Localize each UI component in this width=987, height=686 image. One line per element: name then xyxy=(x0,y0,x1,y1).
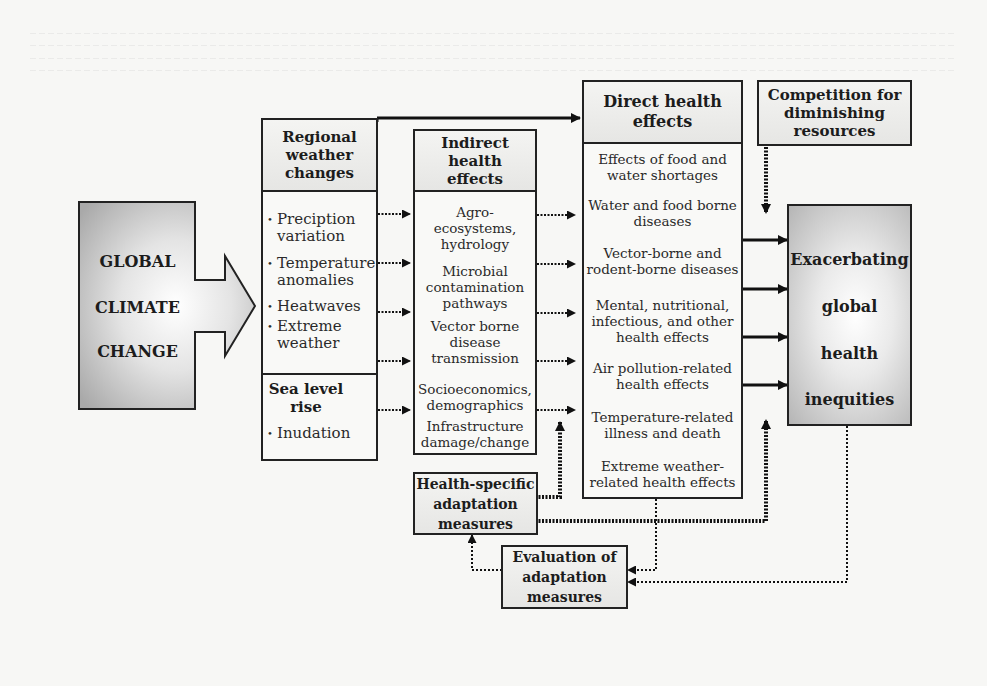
adaptation-measures-box: Health-specific adaptation measures xyxy=(413,472,538,535)
source-label-line1: GLOBAL xyxy=(80,252,195,271)
indirect-item: Microbialcontaminationpathways xyxy=(413,263,537,311)
regional-item: Heatwaves xyxy=(277,298,361,315)
header-line: weather xyxy=(286,146,353,164)
indirect-item: Agro-ecosystems,hydrology xyxy=(413,204,537,252)
direct-item: Vector-borne androdent-borne diseases xyxy=(582,245,743,277)
direct-item: Effects of food andwater shortages xyxy=(582,151,743,183)
direct-item: Extreme weather-related health effects xyxy=(582,458,743,490)
source-label-line3: CHANGE xyxy=(80,342,195,361)
outcome-line: inequities xyxy=(787,390,912,409)
regional-item: Preciptionvariation xyxy=(277,211,355,245)
direct-item: Temperature-relatedillness and death xyxy=(582,409,743,441)
source-label-line2: CLIMATE xyxy=(80,298,195,317)
direct-effects-header: Direct health effects xyxy=(582,80,743,144)
header-line: changes xyxy=(285,164,354,182)
outcome-line: health xyxy=(787,344,912,363)
regional-weather-header: Regional weather changes xyxy=(261,118,378,192)
direct-item: Air pollution-relatedhealth effects xyxy=(582,360,743,392)
regional-item: Extremeweather xyxy=(277,318,342,352)
indirect-item: Vector bornediseasetransmission xyxy=(413,318,537,366)
evaluation-box: Evaluation of adaptation measures xyxy=(501,545,628,609)
indirect-item: Socioeconomics,demographics xyxy=(413,381,537,413)
outcome-line: global xyxy=(787,297,912,316)
outcome-line: Exacerbating xyxy=(787,250,912,269)
indirect-effects-header: Indirect health effects xyxy=(413,129,537,192)
direct-item: Mental, nutritional,infectious, and othe… xyxy=(582,297,743,345)
competition-box: Competition for diminishing resources xyxy=(757,80,912,146)
regional-item: Temperatureanomalies xyxy=(277,255,375,289)
sea-level-header: Sea levelrise xyxy=(261,380,351,416)
direct-item: Water and food bornediseases xyxy=(582,197,743,229)
indirect-item: Infrastructuredamage/change xyxy=(413,418,537,450)
header-line: Regional xyxy=(282,128,357,146)
sea-level-item: Inudation xyxy=(277,425,350,442)
